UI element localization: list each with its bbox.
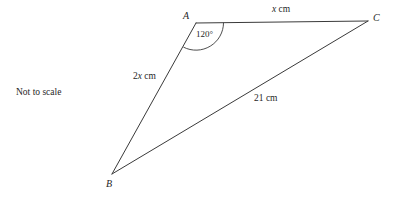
side-ab-line	[112, 23, 196, 174]
vertex-label-a: A	[183, 11, 189, 21]
vertex-label-b: B	[106, 179, 112, 189]
side-label-ac: x cm	[272, 5, 290, 15]
side-label-bc: 21 cm	[254, 94, 277, 104]
vertex-label-c: C	[373, 13, 380, 23]
side-bc-line	[112, 21, 368, 174]
not-to-scale-note: Not to scale	[16, 88, 61, 98]
angle-label-bac: 120°	[196, 30, 213, 39]
diagram-canvas: A B C 120° x cm 2x cm 21 cm Not to scale	[0, 0, 394, 198]
side-ac-line	[196, 21, 368, 23]
side-label-ab: 2x cm	[133, 72, 156, 82]
